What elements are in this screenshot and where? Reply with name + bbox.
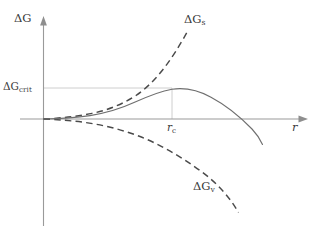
plot-canvas	[0, 0, 315, 236]
critical-energy-subscript: crit	[19, 85, 32, 94]
volume-energy-curve-label: ΔGv	[193, 181, 215, 194]
x-axis-label: r	[292, 122, 298, 134]
y-axis-label: ΔG	[14, 13, 32, 25]
surface-energy-subscript: s	[202, 18, 206, 27]
nucleation-free-energy-figure: ΔG ΔGcrit ΔGs ΔGv rc r	[0, 0, 315, 236]
volume-energy-subscript: v	[211, 185, 216, 194]
curve-volume-energy	[44, 119, 239, 213]
guide-lines	[44, 88, 173, 119]
y-axis-label-text: ΔG	[14, 11, 32, 25]
critical-radius-label: rc	[167, 122, 176, 134]
curve-surface-energy	[44, 30, 189, 120]
x-axis-arrow-icon	[299, 116, 309, 123]
volume-energy-prefix: ΔG	[193, 179, 211, 193]
critical-energy-label: ΔGcrit	[3, 81, 32, 93]
axes	[20, 16, 308, 226]
surface-energy-curve-label: ΔGs	[184, 14, 206, 27]
critical-radius-subscript: c	[172, 126, 176, 135]
surface-energy-prefix: ΔG	[184, 12, 202, 26]
y-axis-arrow-icon	[40, 16, 47, 26]
x-axis-label-text: r	[292, 120, 298, 134]
critical-energy-prefix: ΔG	[3, 80, 19, 92]
